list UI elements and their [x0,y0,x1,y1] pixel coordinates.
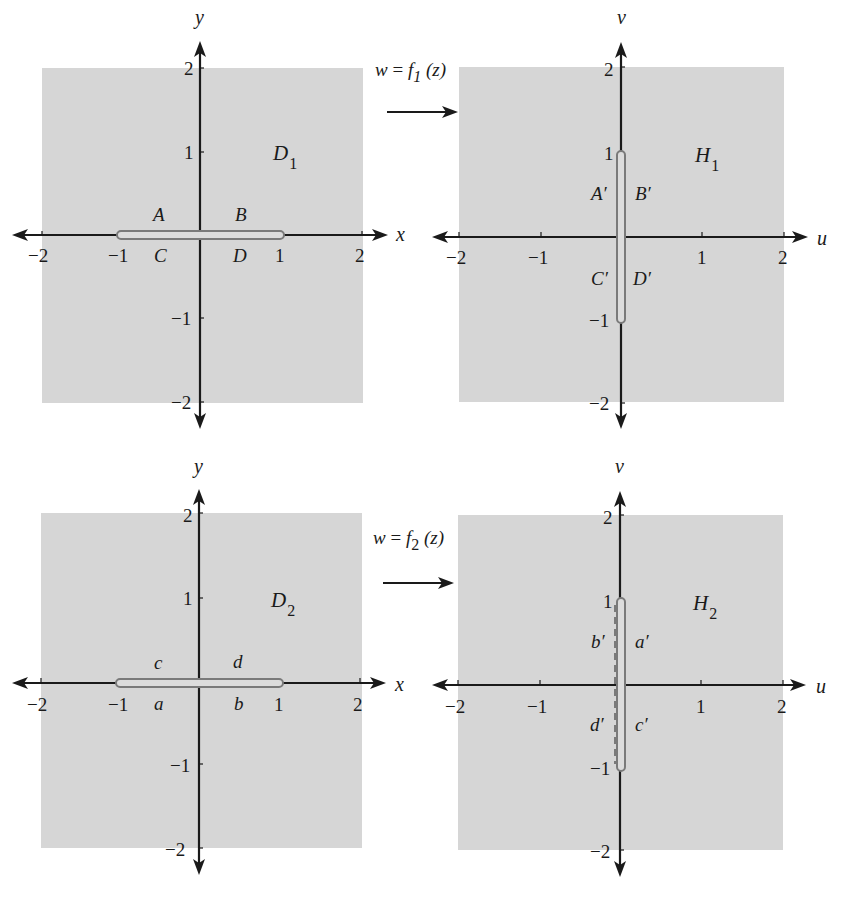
v-axis-label: v [615,455,624,477]
u-tick-label: −2 [446,247,466,268]
slit-segment [617,598,625,771]
segment-label-c-prime: c′ [635,714,648,735]
panel-top-right: −2 −1 1 2 2 1 −1 −2 u v A′ B′ C′ D′ H1 [432,6,827,429]
y-tick-label: 2 [183,505,193,526]
y-tick-label: −2 [165,839,185,860]
u-tick-label: −2 [445,696,465,717]
segment-label-a: a [154,693,164,714]
segment-label-a-prime: A′ [589,183,608,204]
y-axis-label: y [192,455,203,478]
segment-label-d-prime: d′ [590,714,605,735]
segment-label-d: d [233,651,243,672]
v-tick-label: −2 [590,841,610,862]
x-axis-label: x [394,673,404,695]
segment-label-a-prime: a′ [635,631,650,652]
u-tick-label: 2 [777,696,787,717]
y-tick-label: −1 [170,755,190,776]
mapping-label-f2: w = f2 (z) [373,527,444,553]
v-tick-label: −2 [589,393,609,414]
slit-segment [117,231,284,239]
panel-bottom-right: −2 −1 1 2 2 1 −1 −2 u v b′ a′ d′ c′ H2 [432,455,826,877]
segment-label-c-prime: C′ [591,268,609,289]
x-tick-label: −2 [27,694,47,715]
y-tick-label: 1 [184,142,194,163]
y-axis-label: y [193,6,204,29]
panel-top-left: −2 −1 1 2 2 1 −1 −2 x y A B C D D1 [12,6,405,429]
segment-label-a: A [151,204,165,225]
u-tick-label: 1 [696,696,706,717]
segment-label-c: c [154,652,163,673]
v-axis-label: v [617,6,626,28]
v-tick-label: 2 [604,59,614,80]
y-tick-label: −2 [171,392,191,413]
u-tick-label: 2 [778,247,788,268]
v-tick-label: 2 [603,507,613,528]
slit-segment [116,679,283,687]
x-tick-label: 2 [353,694,363,715]
u-tick-label: 1 [697,247,707,268]
segment-label-d: D [232,245,247,266]
u-tick-label: −1 [528,247,548,268]
segment-label-b: B [235,204,247,225]
segment-label-d-prime: D′ [632,268,652,289]
mapping-arrow-f2: w = f2 (z) [373,527,454,589]
y-tick-label: −1 [171,308,191,329]
x-tick-label: −1 [108,694,128,715]
x-tick-label: −1 [108,245,128,266]
mapping-label-f1: w = f1 (z) [375,59,446,85]
slit-segment [617,151,625,323]
x-axis-label: x [395,223,405,245]
v-tick-label: −1 [589,310,609,331]
segment-label-c: C [154,245,167,266]
v-tick-label: 1 [603,591,613,612]
segment-label-b-prime: b′ [591,631,606,652]
y-tick-label: 2 [184,58,194,79]
segment-label-b: b [234,693,244,714]
x-tick-label: 1 [274,694,284,715]
x-tick-label: −2 [28,245,48,266]
segment-label-b-prime: B′ [635,183,652,204]
v-tick-label: −1 [590,758,610,779]
u-axis-label: u [817,227,827,249]
conformal-mapping-figure: −2 −1 1 2 2 1 −1 −2 x y A B C D D1 w = f… [0,0,847,898]
u-tick-label: −1 [527,696,547,717]
v-tick-label: 1 [604,143,614,164]
x-tick-label: 1 [275,245,285,266]
x-tick-label: 2 [355,245,365,266]
y-tick-label: 1 [183,588,193,609]
mapping-arrow-f1: w = f1 (z) [375,59,458,118]
u-axis-label: u [816,675,826,697]
panel-bottom-left: −2 −1 1 2 2 1 −1 −2 x y c d a b D2 [12,455,404,875]
